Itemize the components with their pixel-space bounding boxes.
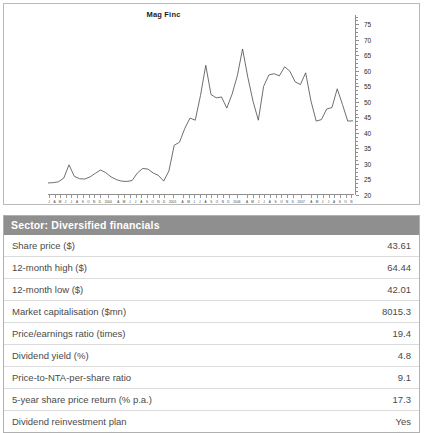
x-axis-tick-label: N [286, 198, 288, 206]
y-axis-tick-label: 45 [364, 114, 371, 121]
stat-value: 19.4 [393, 328, 412, 339]
table-row: 12-month low ($)42.01 [4, 278, 419, 300]
y-axis-minor-tick [356, 121, 358, 122]
stat-value: 17.3 [393, 394, 412, 405]
y-axis-minor-tick [356, 195, 358, 196]
table-row: Share price ($)43.61 [4, 235, 419, 256]
y-axis-minor-tick [356, 20, 358, 21]
x-axis-tick-label: O [152, 198, 155, 206]
x-axis-tick-label: M [187, 198, 190, 206]
y-axis-minor-tick [356, 137, 358, 138]
price-line-chart [48, 17, 353, 192]
x-axis-tick-label: J [199, 198, 201, 206]
x-axis-tick-label: A [333, 198, 335, 206]
stat-value: 9.1 [398, 372, 411, 383]
x-axis-tick-label: O [87, 198, 90, 206]
y-axis-minor-tick [356, 98, 358, 99]
stat-label: Price-to-NTA-per-share ratio [12, 372, 131, 383]
y-axis-minor-tick [356, 168, 358, 169]
x-axis-tick-label: 2007 [298, 198, 305, 206]
y-axis-minor-tick [356, 110, 358, 111]
y-axis-tick-label: 25 [364, 176, 371, 183]
chart-x-tick-labels: JAMJJASOND2004AMJJASOND2005AMJJASOND2006… [48, 198, 354, 206]
x-axis-tick-label: J [193, 198, 195, 206]
y-axis-minor-tick [356, 183, 358, 184]
y-axis-minor-tick [356, 172, 358, 173]
x-axis-tick-label: A [54, 198, 56, 206]
y-axis-tick-label: 70 [364, 36, 371, 43]
x-axis-tick-label: O [344, 198, 347, 206]
stat-value: 4.8 [398, 350, 411, 361]
y-axis-minor-tick [356, 106, 358, 107]
stat-label: Dividend reinvestment plan [12, 416, 127, 427]
stat-label: Dividend yield (%) [12, 350, 89, 361]
y-axis-minor-tick [356, 90, 358, 91]
stat-label: 5-year share price return (% p.a.) [12, 394, 152, 405]
x-axis-tick-label: S [210, 198, 212, 206]
x-axis-tick-label: J [322, 198, 324, 206]
x-axis-tick-label: S [275, 198, 277, 206]
x-axis-tick-label: A [310, 198, 312, 206]
x-axis-tick-label: S [82, 198, 84, 206]
stat-label: 12-month high ($) [12, 262, 87, 273]
x-axis-tick-label: J [65, 198, 67, 206]
y-axis-minor-tick [356, 59, 358, 60]
x-axis-tick-label: S [339, 198, 341, 206]
sector-header: Sector: Diversified financials [4, 216, 419, 235]
x-axis-tick-label: D [292, 198, 294, 206]
y-axis-minor-tick [356, 176, 358, 177]
y-axis-tick-label: 75 [364, 21, 371, 28]
x-axis-tick-label: A [182, 198, 184, 206]
table-row: Price-to-NTA-per-share ratio9.1 [4, 366, 419, 388]
x-axis-tick-label: N [350, 198, 352, 206]
x-axis-tick-label: D [163, 198, 165, 206]
y-axis-minor-tick [356, 141, 358, 142]
x-axis-tick-label: M [316, 198, 319, 206]
x-axis-tick-label: O [216, 198, 219, 206]
company-stats-table: Sector: Diversified financials Share pri… [3, 215, 420, 433]
y-axis-tick-label: 60 [364, 67, 371, 74]
y-axis-minor-tick [356, 129, 358, 130]
x-axis-tick-label: O [280, 198, 283, 206]
stat-value: Yes [396, 416, 412, 427]
y-axis-minor-tick [356, 32, 358, 33]
y-axis-minor-tick [356, 145, 358, 146]
y-axis-minor-tick [356, 117, 358, 118]
x-axis-tick-label: A [117, 198, 119, 206]
y-axis-minor-tick [356, 67, 358, 68]
y-axis-minor-tick [356, 48, 358, 49]
share-price-chart-panel: Mag Finc 757065605550454035302520 JAMJJA… [3, 3, 420, 205]
y-axis-tick-label: 55 [364, 83, 371, 90]
y-axis-minor-tick [356, 86, 358, 87]
table-row: 5-year share price return (% p.a.)17.3 [4, 388, 419, 410]
y-axis-minor-tick [356, 191, 358, 192]
y-axis-minor-tick [356, 75, 358, 76]
table-row: Dividend reinvestment planYes [4, 410, 419, 432]
x-axis-tick-label: A [269, 198, 271, 206]
y-axis-minor-tick [356, 71, 358, 72]
stat-value: 42.01 [387, 284, 411, 295]
y-axis-minor-tick [356, 28, 358, 29]
y-axis-minor-tick [356, 55, 358, 56]
x-axis-tick-label: J [129, 198, 131, 206]
y-axis-minor-tick [356, 156, 358, 157]
y-axis-minor-tick [356, 133, 358, 134]
y-axis-minor-tick [356, 114, 358, 115]
stats-rows: Share price ($)43.6112-month high ($)64.… [4, 235, 419, 432]
x-axis-tick-label: A [246, 198, 248, 206]
x-axis-tick-label: N [157, 198, 159, 206]
y-axis-minor-tick [356, 83, 358, 84]
y-axis-tick-label: 30 [364, 160, 371, 167]
y-axis-tick-label: 50 [364, 98, 371, 105]
x-axis-tick-label: A [205, 198, 207, 206]
x-axis-tick-label: D [227, 198, 229, 206]
y-axis-minor-tick [356, 164, 358, 165]
x-axis-tick-label: 2005 [169, 198, 176, 206]
x-axis-tick-label: N [93, 198, 95, 206]
y-axis-minor-tick [356, 79, 358, 80]
y-axis-minor-tick [356, 152, 358, 153]
y-axis-minor-tick [356, 24, 358, 25]
x-axis-tick-label: J [70, 198, 72, 206]
y-axis-minor-tick [356, 179, 358, 180]
x-axis-tick-label: M [251, 198, 254, 206]
